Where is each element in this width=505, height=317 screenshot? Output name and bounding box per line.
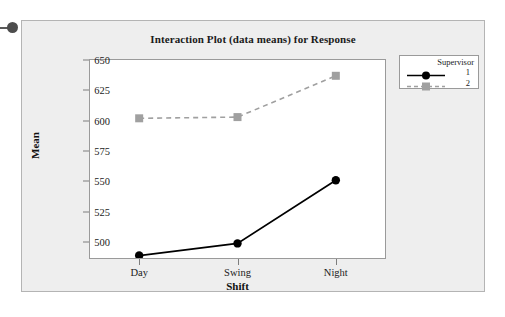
x-tick-label: Night: [301, 267, 371, 278]
data-point-1-Day: [135, 251, 143, 258]
x-tick-label: Swing: [203, 267, 273, 278]
y-tick-mark: [83, 151, 89, 152]
chart-title: Interaction Plot (data means) for Respon…: [22, 33, 484, 45]
legend-entry-1: 1: [400, 67, 478, 78]
y-tick-label: 625: [70, 85, 110, 96]
y-tick-mark: [83, 181, 89, 182]
y-axis-title: Mean: [29, 132, 41, 159]
data-point-1-Swing: [233, 239, 241, 247]
y-tick-label: 500: [70, 237, 110, 248]
y-tick-label: 575: [70, 146, 110, 157]
plot-area: [89, 59, 386, 259]
legend-swatch-square-icon: [405, 78, 447, 89]
data-point-2-Swing: [234, 113, 242, 121]
y-tick-label: 600: [70, 115, 110, 126]
x-tick-mark: [238, 259, 239, 265]
data-point-1-Night: [332, 176, 340, 184]
x-tick-mark: [139, 259, 140, 265]
data-point-2-Day: [135, 114, 143, 122]
data-point-2-Night: [332, 72, 340, 80]
y-tick-label: 525: [70, 206, 110, 217]
y-tick-mark: [83, 90, 89, 91]
legend-swatch-circle-icon: [405, 67, 447, 78]
x-tick-mark: [336, 259, 337, 265]
bullet-dot-icon: [7, 22, 18, 33]
y-tick-mark: [83, 60, 89, 61]
y-tick-label: 550: [70, 176, 110, 187]
series-line-2: [139, 76, 336, 119]
plot-series-svg: [90, 60, 385, 258]
x-tick-label: Day: [104, 267, 174, 278]
legend-title: Supervisor: [437, 57, 474, 67]
y-tick-mark: [83, 211, 89, 212]
legend-label-2: 2: [466, 78, 470, 88]
legend-entry-2: 2: [400, 78, 478, 89]
bullet-marker: [0, 22, 22, 34]
legend: Supervisor 12: [399, 55, 479, 89]
x-axis-title: Shift: [89, 280, 386, 292]
y-tick-mark: [83, 120, 89, 121]
figure-card: Interaction Plot (data means) for Respon…: [21, 20, 485, 292]
legend-label-1: 1: [466, 67, 470, 77]
y-tick-mark: [83, 242, 89, 243]
y-tick-label: 650: [70, 55, 110, 66]
